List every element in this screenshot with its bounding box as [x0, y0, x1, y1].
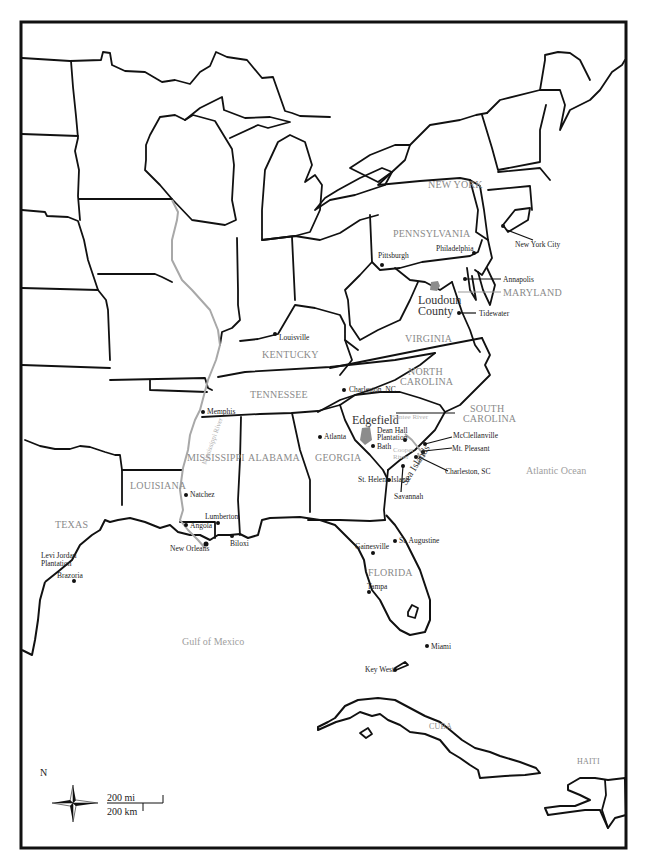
- coast-texas-south: [22, 582, 45, 655]
- label-kentucky: KENTUCKY: [262, 349, 319, 360]
- label-new-orleans: New Orleans: [170, 544, 209, 553]
- label-biloxi: Biloxi: [230, 539, 249, 548]
- border-in-oh: [292, 237, 295, 300]
- border-lake-ontario: [350, 145, 410, 182]
- border-ne-ks: [22, 288, 110, 360]
- border-sd-ne: [22, 210, 98, 290]
- scale-miles-label: 200 mi: [107, 792, 135, 803]
- dot-annapolis: [463, 277, 467, 281]
- scale-bar: 200 mi 200 km: [107, 792, 163, 817]
- border-ohio-north: [262, 215, 378, 240]
- label-mcclellanville: McClellanville: [453, 431, 499, 440]
- label-florida: FLORIDA: [368, 567, 413, 578]
- label-pennsylvania: PENNSYLVANIA: [393, 228, 471, 239]
- key-west-island: [395, 662, 408, 670]
- label-key-west: Key West: [365, 665, 395, 674]
- compass-north-label: N: [40, 767, 47, 778]
- border-new-england: [487, 60, 625, 130]
- dot-atlanta: [318, 435, 322, 439]
- dot-tidewater: [457, 311, 461, 315]
- label-maryland: MARYLAND: [503, 287, 562, 298]
- border-mo-ar: [110, 378, 212, 390]
- border-chesapeake: [467, 268, 476, 300]
- label-bath: Bath: [377, 442, 391, 451]
- label-south-carolina-2: CAROLINA: [463, 413, 517, 424]
- state-labels: NEW YORK PENNSYLVANIA MARYLAND VIRGINIA …: [55, 179, 600, 766]
- border-dakotas: [71, 61, 80, 220]
- border-ms-al: [238, 417, 241, 535]
- label-loudoun-2: County: [418, 304, 453, 318]
- border-il-in: [220, 238, 240, 345]
- border-lake-erie: [315, 168, 392, 210]
- dot-charleston-nc: [342, 388, 346, 392]
- border-long-island: [503, 208, 530, 232]
- border-pa: [370, 215, 482, 270]
- dot-angola: [184, 523, 188, 527]
- dot-gainesville: [371, 551, 375, 555]
- city-dots: [72, 224, 505, 672]
- label-mississippi: MISSISSIPPI: [187, 452, 245, 463]
- haiti-dr-border: [602, 780, 608, 828]
- cuba-outline: [318, 698, 540, 778]
- label-st-helena-island: Savannah: [394, 492, 423, 501]
- label-louisiana: LOUISIANA: [130, 480, 187, 491]
- label-cuba: CUBA: [429, 722, 452, 731]
- label-texas: TEXAS: [55, 519, 88, 530]
- border-vt-nh: [482, 105, 546, 170]
- isle-of-youth: [360, 728, 372, 738]
- label-virginia: VIRGINIA: [405, 333, 453, 344]
- label-new-york: NEW YORK: [428, 179, 483, 190]
- label-alabama: ALABAMA: [248, 452, 301, 463]
- border-nd-sd: [22, 134, 78, 136]
- map-canvas: NEW YORK PENNSYLVANIA MARYLAND VIRGINIA …: [0, 0, 646, 860]
- label-charleston-sc: Charleston, SC: [445, 467, 490, 476]
- label-lumberton: Lumberton: [205, 512, 239, 521]
- border-ky-wv: [340, 340, 352, 375]
- edgefield-area: [360, 427, 372, 445]
- label-santee-river: Santee River: [392, 413, 429, 421]
- border-ia-mo: [98, 274, 172, 282]
- dot-memphis: [201, 410, 205, 414]
- border-ark-bootheel: [150, 380, 207, 392]
- dot-lumberton: [216, 521, 220, 525]
- label-tampa: Tampa: [367, 582, 388, 591]
- label-dean-hall-2: Plantation: [377, 433, 408, 442]
- dot-st-augustine: [393, 539, 397, 543]
- hispaniola-outline: [545, 778, 626, 828]
- label-atlanta: Atlanta: [324, 432, 347, 441]
- label-angola: Angola: [190, 521, 213, 530]
- scale-km-label: 200 km: [107, 806, 138, 817]
- label-charleston-nc: Charleston, NC: [349, 385, 396, 394]
- label-miami: Miami: [431, 642, 451, 651]
- border-nc-coast: [445, 338, 490, 412]
- state-borders: [22, 52, 625, 670]
- compass-rose: N: [40, 767, 98, 822]
- label-levi-jordan-2: Plantation: [41, 559, 72, 568]
- label-tidewater: Tidewater: [479, 309, 510, 318]
- dot-st-helena: [401, 464, 405, 468]
- border-ky-tn: [218, 353, 435, 377]
- border-ok-tx: [25, 440, 122, 505]
- border-wisconsin: [145, 115, 236, 225]
- dot-miami: [425, 644, 429, 648]
- border-maine: [540, 52, 590, 90]
- label-brazoria: Brazoria: [57, 571, 83, 580]
- label-memphis: Memphis: [207, 407, 235, 416]
- label-north-carolina-2: CAROLINA: [400, 376, 454, 387]
- label-gulf-of-mexico: Gulf of Mexico: [182, 636, 244, 647]
- border-ny-north: [410, 113, 487, 145]
- label-st-augustine: St. Augustine: [399, 536, 440, 545]
- label-annapolis: Annapolis: [503, 275, 534, 284]
- border-md-wv: [395, 268, 452, 290]
- label-gainesville: Gainesville: [355, 542, 390, 551]
- dot-louisville: [273, 332, 277, 336]
- label-cooper-2: River: [393, 453, 409, 461]
- label-natchez: Natchez: [190, 490, 215, 499]
- lake-okeechobee: [408, 605, 418, 618]
- label-pittsburgh: Pittsburgh: [378, 251, 409, 260]
- dot-natchez: [184, 493, 188, 497]
- label-philadelphia: Philadelphia: [436, 244, 474, 253]
- label-atlantic-ocean: Atlantic Ocean: [526, 465, 586, 476]
- label-tennessee: TENNESSEE: [250, 389, 308, 400]
- label-new-york-city: New York City: [515, 240, 560, 249]
